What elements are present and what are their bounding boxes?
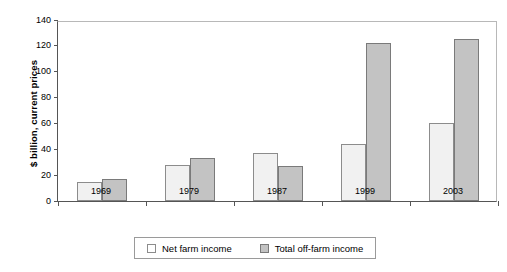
bar-group [410,22,498,201]
x-axis-tick-mark [146,201,147,206]
y-axis-tick-label: 20 [41,169,51,181]
x-axis-tick-mark [498,201,499,206]
x-axis-tick-label: 1979 [145,186,233,196]
bar-group [234,22,322,201]
x-axis-tick-label: 2003 [409,186,497,196]
plot-area: 020406080100120140 [57,21,497,202]
legend-entry: Net farm income [147,243,232,254]
legend-entry: Total off-farm income [260,243,364,254]
x-axis-tick-label: 1999 [321,186,409,196]
x-axis-tick-label: 1969 [57,186,145,196]
legend-label: Total off-farm income [275,243,364,254]
bar-chart: $ billion, current prices 02040608010012… [0,0,507,272]
legend-label: Net farm income [162,243,232,254]
x-axis-tick-label: 1987 [233,186,321,196]
x-axis-tick-mark [234,201,235,206]
x-axis-tick-mark [322,201,323,206]
y-axis-tick-label: 120 [36,39,51,51]
y-axis-tick-label: 0 [46,195,51,207]
y-axis-tick-label: 140 [36,14,51,26]
x-axis-tick-mark [410,201,411,206]
bar-group [322,22,410,201]
bar-group [146,22,234,201]
bar-group [58,22,146,201]
y-axis-tick-label: 40 [41,143,51,155]
legend-swatch-total-off-farm-income [260,244,269,253]
chart-legend: Net farm incomeTotal off-farm income [134,237,376,259]
y-axis-tick-label: 80 [41,91,51,103]
y-axis-tick-label: 60 [41,117,51,129]
bar [366,43,391,201]
x-axis-tick-mark [58,201,59,206]
bar [454,39,479,201]
legend-swatch-net-farm-income [147,244,156,253]
y-axis-tick-mark [54,20,58,21]
y-axis-tick-label: 100 [36,65,51,77]
